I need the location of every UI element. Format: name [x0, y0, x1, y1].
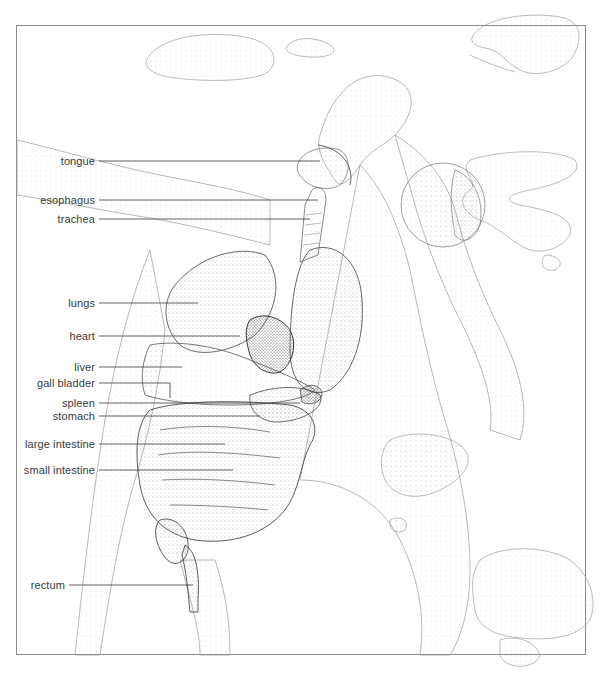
label-heart: heart: [69, 330, 95, 342]
label-stomach: stomach: [53, 410, 95, 422]
label-gall-bladder: gall bladder: [37, 377, 95, 389]
label-liver: liver: [74, 361, 95, 373]
label-trachea: trachea: [58, 213, 95, 225]
label-large-intestine: large intestine: [25, 438, 95, 450]
label-rectum: rectum: [31, 579, 65, 591]
label-lungs: lungs: [68, 297, 95, 309]
anatomy-figure: tongue esophagus trachea lungs heart liv…: [0, 0, 604, 675]
leader-line-gall-bladder: [99, 383, 170, 398]
label-spleen: spleen: [62, 397, 95, 409]
label-small-intestine: small intestine: [24, 464, 95, 476]
label-tongue: tongue: [61, 155, 95, 167]
label-esophagus: esophagus: [40, 194, 95, 206]
